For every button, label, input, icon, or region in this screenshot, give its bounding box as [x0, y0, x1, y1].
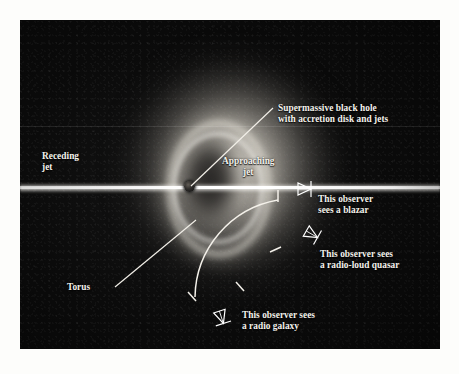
label-observer-blazar: This observer sees a blazar [318, 194, 373, 217]
observer-eye-icon-quasar[interactable] [302, 224, 321, 244]
astronomy-figure-plate: Supermassive black hole with accretion d… [20, 20, 440, 349]
observer-eye-icon-blazar[interactable] [298, 181, 311, 197]
observer-eye-icon-radio-galaxy[interactable] [212, 309, 231, 326]
label-approaching-jet: Approaching jet [222, 156, 275, 179]
label-supermassive-black-hole: Supermassive black hole with accretion d… [278, 103, 388, 126]
label-receding-jet: Receding jet [42, 151, 79, 174]
label-torus: Torus [67, 282, 90, 293]
figure-page: Supermassive black hole with accretion d… [0, 0, 459, 374]
annotation-overlay [20, 20, 440, 349]
label-observer-quasar: This observer sees a radio-loud quasar [320, 249, 399, 272]
leader-line-torus [115, 220, 196, 287]
arc-tick-quasar-radiogalaxy [236, 282, 244, 291]
arc-tick-blazar-quasar [270, 247, 281, 252]
label-observer-radio-galaxy: This observer sees a radio galaxy [242, 310, 315, 333]
